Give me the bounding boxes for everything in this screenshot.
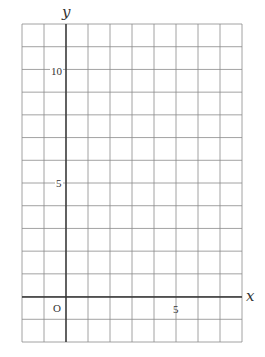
x-axis-label: x (246, 289, 254, 304)
origin-label: O (53, 303, 61, 314)
x-tick-label-5: 5 (173, 304, 179, 315)
coordinate-grid (0, 0, 265, 357)
y-axis-label: y (62, 5, 70, 20)
y-tick-label-10: 10 (50, 66, 63, 77)
y-tick-label-5: 5 (55, 178, 63, 189)
